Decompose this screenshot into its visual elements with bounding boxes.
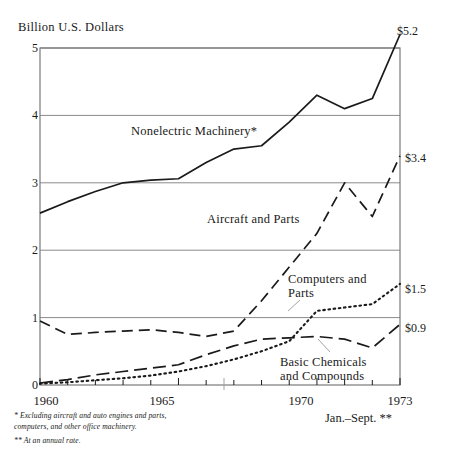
leader-computers-and-parts <box>288 300 300 311</box>
data-series-group <box>40 35 400 384</box>
series-label-basic-chemicals-line1: Basic Chemicals <box>280 355 367 369</box>
y-tick-label-3: 3 <box>22 176 38 191</box>
y-tick-label-0: 0 <box>22 378 38 393</box>
y-tick-label-4: 4 <box>22 108 38 123</box>
annual-rate-note: Jan.–Sept. ** <box>325 411 392 426</box>
series-label-nonelectric-machinery: Nonelectric Machinery* <box>131 124 257 138</box>
y-tick-label-5: 5 <box>22 41 38 56</box>
footnote-line-3: ** At an annual rate. <box>14 436 81 446</box>
series-label-computers-and-parts-line1: Computers and <box>288 272 367 286</box>
series-label-computers-and-parts-line2: Parts <box>288 286 314 300</box>
end-label-nonelectric-machinery: $5.2 <box>397 24 418 39</box>
x-tick-label-1965: 1965 <box>138 394 186 409</box>
x-tick-label-1960: 1960 <box>22 394 70 409</box>
y-tick-label-1: 1 <box>22 311 38 326</box>
footnote-line-1: * Excluding aircraft and auto engines an… <box>14 411 167 421</box>
series-label-basic-chemicals-line2: and Compounds <box>280 369 364 383</box>
footnote-line-2: computers, and other office machinery. <box>14 422 137 432</box>
x-tick-label-1973: 1973 <box>376 394 424 409</box>
end-label-aircraft-and-parts: $3.4 <box>405 151 426 166</box>
x-tick-label-1970: 1970 <box>277 394 325 409</box>
end-label-basic-chemicals: $0.9 <box>405 321 426 336</box>
chart-page: Billion U.S. Dollars 5 4 3 2 1 0 1960 19… <box>0 0 449 460</box>
leader-basic-chemicals <box>318 339 330 352</box>
chart-plot-area <box>0 0 449 460</box>
y-tick-label-2: 2 <box>22 243 38 258</box>
end-label-computers-and-parts: $1.5 <box>405 282 426 297</box>
series-label-aircraft-and-parts: Aircraft and Parts <box>207 212 299 226</box>
